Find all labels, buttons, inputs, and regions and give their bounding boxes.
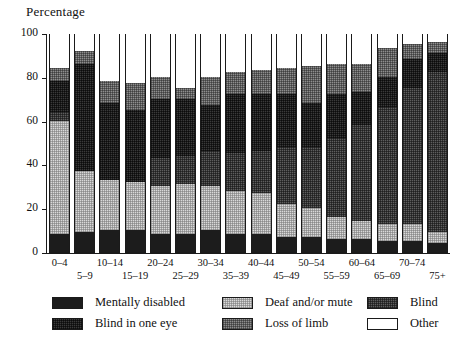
segment-blind-in-one-eye [252,94,271,151]
chart-legend: Mentally disabledBlind in one eyeDeaf an… [52,295,452,337]
segment-other [327,33,346,64]
segment-deaf-and-or-mute [378,224,397,242]
segment-blind-in-one-eye [201,105,220,151]
bar-0-4 [49,34,70,253]
segment-blind [277,147,296,204]
x-tick-label-0-4: 0–4 [37,257,83,268]
segment-deaf-and-or-mute [302,208,321,236]
swatch-mentally-disabled [52,297,83,309]
segment-blind [403,88,422,224]
segment-deaf-and-or-mute [100,180,119,230]
segment-other [277,33,296,68]
segment-blind [252,151,271,193]
segment-loss-of-limb [327,64,346,95]
segment-deaf-and-or-mute [176,184,195,234]
segment-other [428,33,447,42]
segment-mentally-disabled [126,230,145,252]
segment-blind-in-one-eye [226,94,245,153]
segment-deaf-and-or-mute [327,217,346,239]
x-tick-label-35-39: 35–39 [213,270,259,281]
segment-blind [378,107,397,223]
segment-loss-of-limb [100,81,119,103]
segment-mentally-disabled [226,234,245,252]
segment-deaf-and-or-mute [126,182,145,230]
legend-label: Loss of limb [265,316,328,331]
bar-10-14 [99,34,120,253]
segment-deaf-and-or-mute [403,224,422,242]
segment-other [302,33,321,66]
segment-blind-in-one-eye [100,103,119,180]
legend-label: Blind [410,295,438,310]
segment-mentally-disabled [100,230,119,252]
legend-item-mentally-disabled: Mentally disabled [52,295,185,310]
y-axis-title: Percentage [26,4,85,20]
legend-item-deaf-and-or-mute: Deaf and/or mute [222,295,352,310]
segment-loss-of-limb [151,77,170,99]
segment-mentally-disabled [75,232,94,252]
segment-blind-in-one-eye [75,64,94,171]
segment-blind-in-one-eye [302,103,321,147]
segment-deaf-and-or-mute [201,186,220,230]
x-tick-label-50-54: 50–54 [288,257,334,268]
segment-mentally-disabled [176,234,195,252]
x-tick-label-45-49: 45–49 [263,270,309,281]
segment-mentally-disabled [327,239,346,252]
segment-blind-in-one-eye [151,99,170,158]
segment-loss-of-limb [201,77,220,105]
segment-other [403,33,422,44]
segment-mentally-disabled [302,237,321,252]
segment-other [226,33,245,72]
segment-other [151,33,170,77]
legend-item-other: Other [367,316,438,331]
y-tick-label-100: 100 [0,26,38,38]
x-tick-label-30-34: 30–34 [188,257,234,268]
segment-loss-of-limb [226,72,245,94]
segment-other [126,33,145,83]
x-tick-label-75+: 75+ [414,270,460,281]
x-tick-label-5-9: 5–9 [62,270,108,281]
x-tick-label-55-59: 55–59 [314,270,360,281]
segment-other [75,33,94,51]
segment-deaf-and-or-mute [252,193,271,235]
segment-blind [176,156,195,184]
y-tick-label-20: 20 [0,201,38,213]
bar-5-9 [74,34,95,253]
legend-label: Deaf and/or mute [265,295,352,310]
bar-50-54 [301,34,322,253]
x-tick-label-70-74: 70–74 [389,257,435,268]
bar-30-34 [200,34,221,253]
x-tick-label-20-24: 20–24 [137,257,183,268]
legend-label: Other [410,316,438,331]
bar-20-24 [150,34,171,253]
legend-item-loss-of-limb: Loss of limb [222,316,328,331]
x-tick-label-40-44: 40–44 [238,257,284,268]
segment-loss-of-limb [75,51,94,64]
segment-other [252,33,271,70]
segment-deaf-and-or-mute [151,186,170,234]
legend-label: Blind in one eye [95,316,177,331]
swatch-deaf-mute [222,297,253,309]
bar-75+ [427,34,448,253]
stacked-bars [47,34,450,253]
x-tick-label-25-29: 25–29 [163,270,209,281]
segment-other [100,33,119,81]
segment-blind-in-one-eye [176,99,195,156]
x-tick-label-65-69: 65–69 [364,270,410,281]
x-tick-label-10-14: 10–14 [87,257,133,268]
segment-blind [302,147,321,208]
segment-other [50,33,69,68]
x-axis-labels: 0–45–910–1415–1920–2425–2930–3435–3940–4… [47,253,450,287]
segment-deaf-and-or-mute [352,221,371,239]
segment-blind [151,158,170,186]
segment-other [352,33,371,64]
segment-loss-of-limb [252,70,271,94]
segment-loss-of-limb [403,44,422,59]
bar-35-39 [225,34,246,253]
chart-figure: Percentage 020406080100 0–45–910–1415–19… [0,0,463,345]
segment-other [176,33,195,88]
segment-loss-of-limb [302,66,321,103]
y-tick-label-60: 60 [0,114,38,126]
segment-mentally-disabled [378,241,397,252]
segment-blind [327,138,346,217]
segment-deaf-and-or-mute [226,191,245,235]
